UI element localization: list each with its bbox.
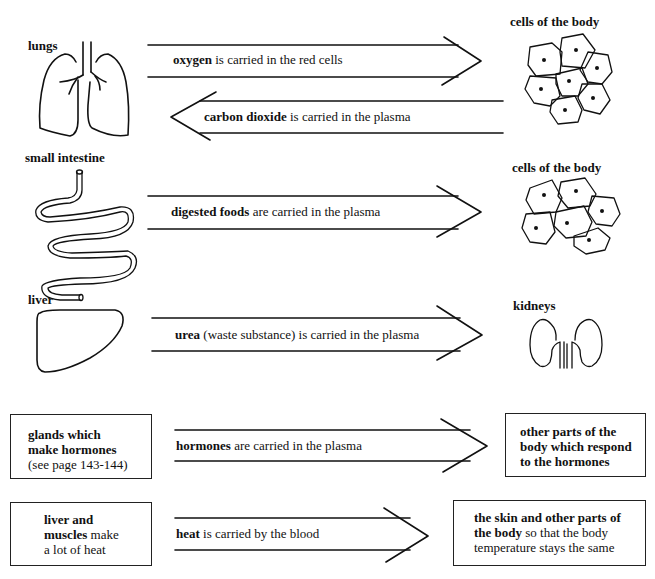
box-line: the body so that the body xyxy=(474,525,621,540)
label-cells-of-the-body-1: cells of the body xyxy=(510,14,599,30)
arrow-text-bold: heat xyxy=(176,526,200,541)
box-line: a lot of heat xyxy=(44,542,119,557)
arrow-text-bold: digested foods xyxy=(171,204,249,219)
arrow-text-rest: are carried in the plasma xyxy=(249,204,380,219)
arrow-text-rest: are carried in the plasma xyxy=(231,438,362,453)
box-line: glands which xyxy=(28,427,128,442)
box-liver-muscles: liver and muscles make a lot of heat xyxy=(10,502,152,566)
box-line: muscles make xyxy=(44,527,119,542)
arrow-text-rest: (waste substance) is carried in the plas… xyxy=(200,327,419,342)
box-line: temperature stays the same xyxy=(474,540,621,555)
box-text-rest: so that the body xyxy=(522,525,608,540)
arrow-text-hormones: hormones are carried in the plasma xyxy=(176,438,362,454)
arrow-text-heat: heat is carried by the blood xyxy=(176,526,319,542)
arrow-text-rest: is carried by the blood xyxy=(200,526,320,541)
label-kidneys: kidneys xyxy=(513,298,556,314)
arrow-text-rest: is carried in the red cells xyxy=(212,52,343,67)
arrow-text-bold: carbon dioxide xyxy=(204,109,287,124)
box-line: to the hormones xyxy=(520,454,632,469)
arrow-text-bold: oxygen xyxy=(173,52,212,67)
lungs-icon xyxy=(40,42,129,136)
box-text-rest: make xyxy=(87,527,118,542)
diagram-canvas xyxy=(0,0,655,579)
label-lungs: lungs xyxy=(28,38,58,54)
box-line: the skin and other parts of xyxy=(474,510,621,525)
arrow-text-bold: urea xyxy=(175,327,200,342)
box-text-bold: the body xyxy=(474,525,522,540)
label-small-intestine: small intestine xyxy=(25,150,105,166)
box-glands: glands which make hormones (see page 143… xyxy=(10,414,152,479)
box-skin: the skin and other parts of the body so … xyxy=(453,500,646,566)
cells-icon xyxy=(522,178,620,254)
intestine-icon xyxy=(36,170,137,301)
box-other-parts: other parts of the body which respond to… xyxy=(505,413,646,477)
box-line: make hormones xyxy=(28,442,128,457)
label-cells-of-the-body-2: cells of the body xyxy=(512,160,601,176)
arrow-text-carbon-dioxide: carbon dioxide is carried in the plasma xyxy=(204,109,411,125)
kidneys-icon xyxy=(530,320,602,369)
box-line: body which respond xyxy=(520,439,632,454)
box-line: (see page 143-144) xyxy=(28,457,128,472)
cells-icon xyxy=(525,34,612,124)
box-text-bold: muscles xyxy=(44,527,87,542)
box-line: liver and xyxy=(44,512,119,527)
arrow-text-bold: hormones xyxy=(176,438,231,453)
arrow-text-digested-foods: digested foods are carried in the plasma xyxy=(171,204,380,220)
liver-icon xyxy=(37,310,123,372)
box-line: other parts of the xyxy=(520,424,632,439)
arrow-text-oxygen: oxygen is carried in the red cells xyxy=(173,52,343,68)
arrow-text-rest: is carried in the plasma xyxy=(287,109,411,124)
arrow-text-urea: urea (waste substance) is carried in the… xyxy=(175,327,419,343)
label-liver: liver xyxy=(28,292,53,308)
